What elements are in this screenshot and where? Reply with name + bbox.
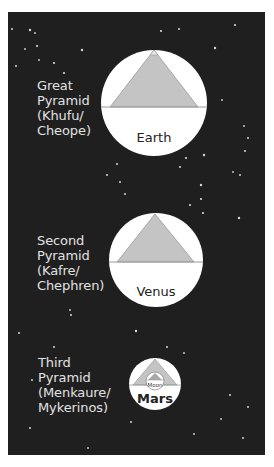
planet-label-mars: Mars (137, 391, 173, 406)
planet-label-earth: Earth (137, 130, 172, 145)
starfield-panel: Earth Venus Moon Mars Great Pyramid (Khu… (8, 12, 265, 455)
moon-label: Moon (148, 382, 163, 388)
great-pyramid-label: Great Pyramid (Khufu/ Cheope) (37, 78, 91, 138)
planet-label-venus: Venus (136, 284, 175, 299)
second-pyramid-label: Second Pyramid (Kafre/ Chephren) (37, 233, 104, 293)
third-pyramid-label: Third Pyramid (Menkaure/ Mykerinos) (38, 355, 110, 415)
